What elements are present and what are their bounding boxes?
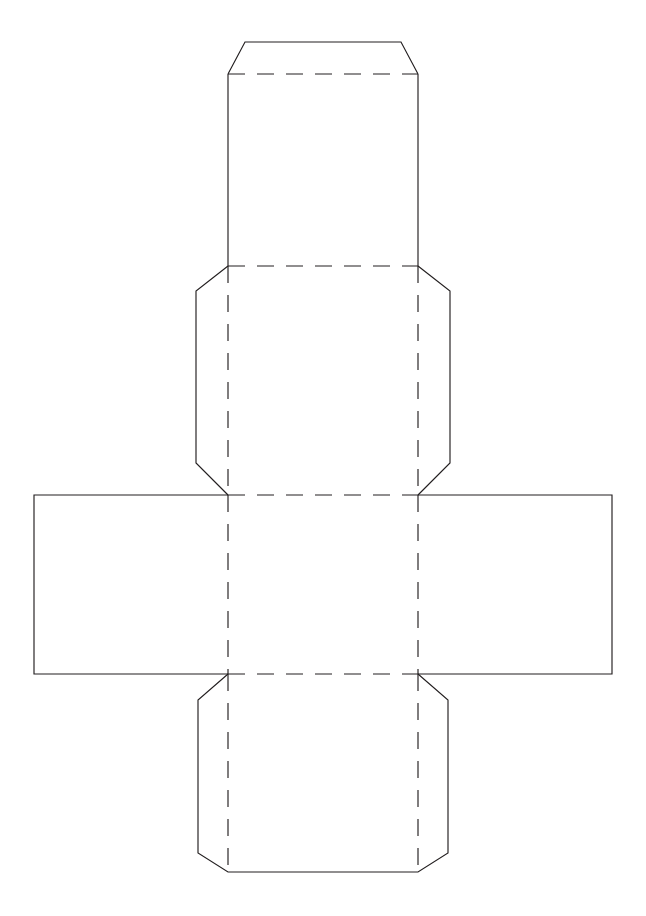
right-panel-fill (418, 495, 612, 674)
top-panel-fill (228, 74, 418, 266)
center-panel-fill (228, 495, 418, 674)
top-glue-flap-fill (228, 42, 418, 74)
papercraft-template-canvas: Cube Box Papercraft Template Cut line (s… (0, 0, 646, 916)
upper-middle-panel-fill (196, 266, 450, 495)
fold-legend-label: Fold line (dashed) (4, 26, 132, 43)
bottom-panel-fill (198, 674, 448, 872)
left-panel-fill (34, 495, 228, 674)
